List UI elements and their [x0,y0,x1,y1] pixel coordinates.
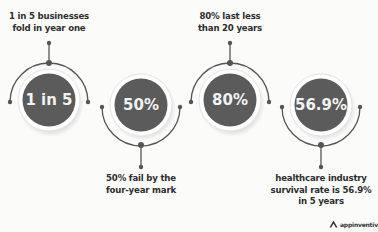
stat-caption-4: healthcare industry survival rate is 56.… [267,173,375,208]
stat-caption-2: 50% fail by the four-year mark [92,173,190,196]
caption-line: 50% fail by the [92,173,190,185]
caption-line: four-year mark [92,185,190,197]
stat-value-1: 1 in 5 [19,90,79,110]
caption-line: 1 in 5 businesses [0,11,98,23]
stat-caption-1: 1 in 5 businesses fold in year one [0,11,98,34]
stat-circle-1 [8,41,90,137]
caption-line: healthcare industry [267,173,375,185]
caption-line: survival rate is 56.9% [267,185,375,197]
stat-circle-4 [280,74,362,169]
triangle-a-logo-icon [329,220,338,228]
stat-circle-2 [100,74,182,169]
caption-line: 80% last less [181,11,279,23]
caption-line: than 20 years [181,23,279,35]
stat-value-4: 56.9% [286,95,356,115]
stat-circle-3 [189,41,271,137]
stat-value-2: 50% [111,95,171,115]
stat-value-3: 80% [200,90,260,110]
caption-line: fold in year one [0,23,98,35]
brand-name: appinventiv [340,221,378,228]
stat-caption-3: 80% last less than 20 years [181,11,279,34]
brand-logo: appinventiv [329,220,378,228]
caption-line: in 5 years [267,196,375,208]
